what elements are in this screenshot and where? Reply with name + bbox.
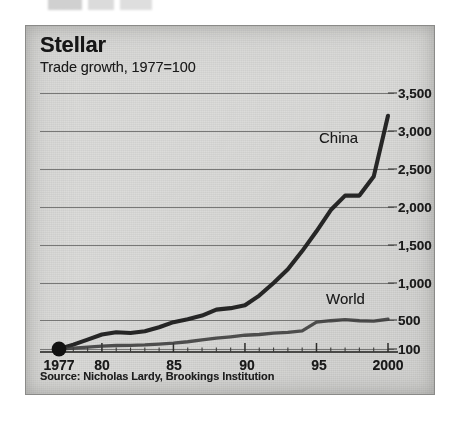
series-label-world: World — [326, 291, 365, 306]
x-axis-minor-ticks-group — [73, 348, 373, 353]
origin-marker-group — [52, 342, 67, 357]
y-axis-label-1500: 1,500 — [398, 239, 432, 252]
x-axis-label-2000: 2000 — [372, 358, 403, 372]
y-axis-label-2000: 2,000 — [398, 201, 432, 214]
y-axis-label-1000: 1,000 — [398, 277, 432, 290]
x-axis-label-1995: 95 — [311, 358, 327, 372]
y-axis-label-500: 500 — [398, 314, 421, 327]
y-axis-label-2500: 2,500 — [398, 163, 432, 176]
series-lines-group — [59, 116, 388, 349]
series-line-china — [59, 116, 388, 349]
chart-heading: Stellar Trade growth, 1977=100 — [40, 33, 196, 76]
chart-title: Stellar — [40, 33, 196, 57]
y-axis-label-100: 100 — [398, 343, 421, 356]
source-note: Source: Nicholas Lardy, Brookings Instit… — [40, 370, 274, 382]
scan-remnant-text — [48, 0, 168, 10]
chart-figure: Stellar Trade growth, 1977=100 3,5003,00… — [25, 25, 435, 395]
chart-subtitle: Trade growth, 1977=100 — [40, 58, 196, 76]
y-axis-label-3500: 3,500 — [398, 87, 432, 100]
plot-area — [26, 26, 435, 395]
origin-marker-dot — [52, 342, 67, 357]
y-axis-label-3000: 3,000 — [398, 125, 432, 138]
series-label-china: China — [319, 130, 358, 145]
